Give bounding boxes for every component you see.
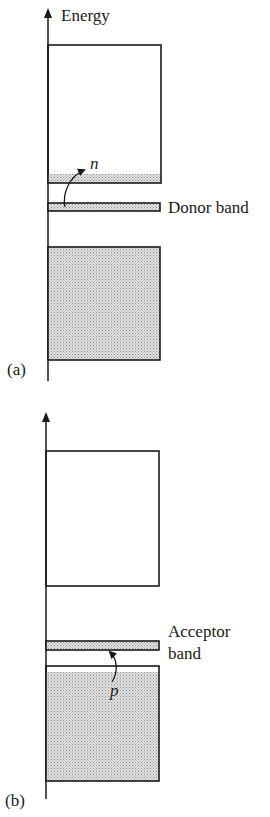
donor-band-label: Donor band — [168, 198, 249, 217]
conduction-band-b — [46, 451, 159, 586]
acceptor-band-label-line2: band — [168, 644, 202, 663]
panel-b-label: (b) — [5, 791, 25, 810]
panel-b: Acceptor band p (b) — [5, 412, 231, 810]
band-diagram: Energy Donor band n (a) Acceptor band — [0, 0, 270, 817]
panel-a-label: (a) — [7, 360, 26, 379]
panel-a: Energy Donor band n (a) — [7, 6, 249, 381]
energy-axis-label: Energy — [61, 6, 110, 25]
n-carrier-label: n — [90, 154, 99, 173]
conduction-band-a — [48, 45, 161, 183]
valence-band-a — [48, 247, 160, 360]
axis-arrow-icon — [44, 8, 52, 18]
axis-arrow-icon — [42, 412, 50, 422]
acceptor-band — [46, 641, 159, 650]
acceptor-band-label-line1: Acceptor — [168, 622, 231, 641]
valence-band-b — [46, 666, 159, 781]
p-carrier-label: p — [109, 681, 119, 700]
